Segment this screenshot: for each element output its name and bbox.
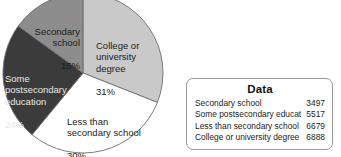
data-table-row-label: Secondary school — [195, 98, 262, 109]
pie-slice-label-text: Less than secondary school — [67, 116, 141, 139]
pie-slice-label-text: Secondary school — [35, 26, 80, 49]
pie-slice-label-less-than-secondary-school: Less than secondary school 30% — [67, 104, 147, 157]
data-table-row: Less than secondary school6679 — [195, 121, 325, 132]
data-table-row-value: 6679 — [301, 121, 325, 132]
pie-slice-percent: 30% — [67, 150, 86, 157]
data-table-row-value: 5517 — [301, 109, 325, 120]
data-table-row-label: Some postsecondary education — [195, 109, 301, 120]
data-table-panel: Data Secondary school3497Some postsecond… — [186, 78, 333, 150]
pie-chart-figure: College or university degree 31% Less th… — [0, 0, 175, 157]
data-table-row-label: College or university degree — [195, 132, 299, 143]
screenshot-root: College or university degree 31% Less th… — [0, 0, 341, 157]
data-table-row-label: Less than secondary school — [195, 121, 299, 132]
data-table-title: Data — [195, 83, 325, 95]
data-table-row: College or university degree6888 — [195, 132, 325, 143]
pie-slice-label-college-or-university-degree: College or university degree 31% — [96, 28, 158, 97]
data-table-row: Secondary school3497 — [195, 98, 325, 109]
pie-slice-percent: 31% — [96, 86, 115, 97]
data-table-rows: Secondary school3497Some postsecondary e… — [195, 98, 325, 144]
pie-slice-percent: 24% — [5, 119, 24, 130]
pie-slice-percent: 15% — [61, 60, 80, 71]
pie-slice-label-secondary-school: Secondary school 15% — [18, 14, 80, 72]
data-table-row-value: 3497 — [301, 98, 325, 109]
data-table-row: Some postsecondary education5517 — [195, 109, 325, 120]
pie-slice-label-text: College or university degree — [96, 40, 139, 74]
pie-slice-label-text: Some postsecondary education — [5, 73, 67, 107]
data-table-row-value: 6888 — [301, 132, 325, 143]
